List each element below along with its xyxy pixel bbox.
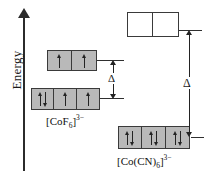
spin-up-arrow-icon [86, 91, 91, 107]
cocn6-lower-level-row [118, 126, 190, 149]
spin-down-arrow-icon [154, 130, 159, 146]
crystal-field-splitting-diagram: Energy [0, 0, 206, 176]
cof6-caption: [CoF6]3− [46, 116, 84, 127]
spin-down-arrow-icon [43, 91, 48, 107]
orbital-box [142, 126, 166, 149]
electron-spin-group [32, 89, 53, 109]
electron-spin-group [48, 51, 71, 70]
cocn6-formula-charge: 3− [164, 153, 172, 162]
cof6-upper-level-row [47, 50, 97, 71]
electron-spin-group [77, 89, 99, 109]
cocn6-caption: [Co(CN)6]3− [117, 156, 172, 167]
cof6-lower-level-row [31, 88, 100, 110]
cof6-formula-metal: Co [50, 115, 63, 127]
electron-spin-group [153, 13, 178, 36]
cocn6-upper-level-row [127, 12, 179, 37]
spin-up-arrow-icon [82, 53, 87, 69]
electron-spin-group [54, 89, 76, 109]
electron-spin-group [72, 51, 96, 70]
electron-spin-group [128, 13, 152, 36]
orbital-box [77, 88, 100, 110]
cocn6-formula-ligand: (CN) [134, 155, 157, 167]
orbital-box [153, 12, 179, 37]
electron-spin-group [142, 127, 165, 148]
cof6-formula-charge: 3− [76, 113, 84, 122]
orbital-box [47, 50, 72, 71]
spin-down-arrow-icon [130, 130, 135, 146]
cocn6-lower-leader-line [191, 137, 204, 138]
cocn6-delta-label: Δ [182, 77, 192, 89]
cof6-delta-label: Δ [107, 73, 116, 84]
orbital-box [72, 50, 97, 71]
arrow-head-down-icon [186, 132, 192, 137]
spin-up-arrow-icon [57, 53, 62, 69]
orbital-box [31, 88, 54, 110]
orbital-box [54, 88, 77, 110]
energy-axis-label: Energy [9, 40, 25, 100]
spin-up-arrow-icon [63, 91, 68, 107]
spin-down-arrow-icon [178, 130, 183, 146]
orbital-box [127, 12, 153, 37]
electron-spin-group [119, 127, 141, 148]
orbital-box [118, 126, 142, 149]
arrow-head-down-icon [110, 94, 116, 99]
cocn6-formula-metal: Co [121, 155, 134, 167]
